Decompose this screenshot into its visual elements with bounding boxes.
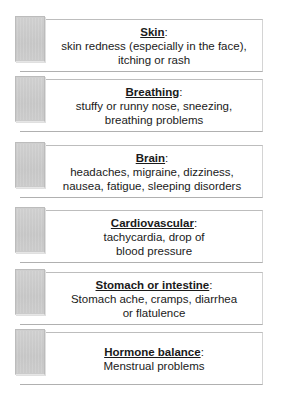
card-title: Skin: — [140, 25, 168, 39]
card-text: Cardiovascular: tachycardia, drop of blo… — [45, 210, 263, 263]
card-line: headaches, migraine, dizziness, — [70, 165, 234, 179]
card-line: skin redness (especially in the face), — [61, 39, 246, 53]
card-text: Brain: headaches, migraine, dizziness, n… — [41, 145, 263, 198]
card-line: tachycardia, drop of — [103, 230, 204, 244]
grey-tab-square — [15, 76, 45, 122]
grey-tab-square — [15, 269, 45, 315]
card-line: itching or rash — [118, 53, 190, 67]
card-line: or flatulence — [123, 306, 186, 320]
card-title: Breathing: — [126, 85, 183, 99]
card-title: Stomach or intestine: — [96, 278, 213, 292]
grey-tab-square — [15, 16, 45, 62]
card-text: Stomach or intestine: Stomach ache, cram… — [45, 272, 263, 325]
card-line: stuffy or runny nose, sneezing, — [76, 99, 232, 113]
card-line: nausea, fatigue, sleeping disorders — [63, 179, 241, 193]
card-title: Cardiovascular: — [111, 216, 197, 230]
card-line: breathing problems — [105, 113, 203, 127]
card-title: Brain: — [136, 151, 169, 165]
card-hormone: Hormone balance: Menstrual problems — [15, 329, 265, 385]
grey-tab-square — [15, 207, 45, 253]
card-text: Breathing: stuffy or runny nose, sneezin… — [45, 79, 263, 132]
card-cardiovascular: Cardiovascular: tachycardia, drop of blo… — [15, 207, 265, 263]
card-text: Hormone balance: Menstrual problems — [45, 332, 263, 385]
card-stomach: Stomach or intestine: Stomach ache, cram… — [15, 269, 265, 325]
card-brain: Brain: headaches, migraine, dizziness, n… — [15, 142, 265, 198]
card-breathing: Breathing: stuffy or runny nose, sneezin… — [15, 76, 265, 132]
card-line: blood pressure — [116, 244, 192, 258]
card-text: Skin: skin redness (especially in the fa… — [45, 19, 263, 72]
card-line: Stomach ache, cramps, diarrhea — [71, 292, 237, 306]
card-line: Menstrual problems — [104, 359, 205, 373]
card-title: Hormone balance: — [104, 345, 204, 359]
grey-tab-square — [15, 329, 45, 375]
card-skin: Skin: skin redness (especially in the fa… — [15, 16, 265, 72]
